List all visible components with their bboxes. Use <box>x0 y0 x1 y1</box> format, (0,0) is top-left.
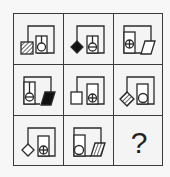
puzzle-grid: ? <box>13 13 163 166</box>
cell-1-1 <box>71 77 104 104</box>
cell-2-0 <box>22 128 55 156</box>
cell-0-0 <box>21 26 54 54</box>
cell-1-0 <box>24 77 55 105</box>
cell-0-1 <box>71 26 104 53</box>
cell-0-2 <box>124 26 155 54</box>
cell-1-2 <box>120 77 154 106</box>
cell-2-1 <box>74 128 105 156</box>
missing-cell-question-mark: ? <box>114 126 164 160</box>
